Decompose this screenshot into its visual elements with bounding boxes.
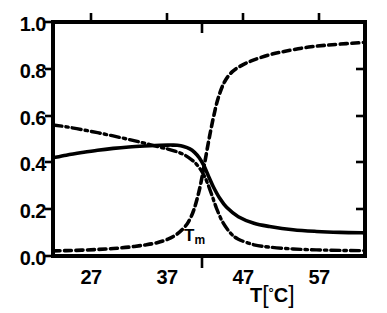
- xaxis-title-bracket-open: [: [262, 282, 268, 308]
- ytick-label-0p2: 0.2: [0, 201, 46, 221]
- xaxis-title-unit: C: [274, 284, 288, 306]
- tm-annotation: Tm: [184, 227, 205, 246]
- ytick-label-0p0: 0.0: [0, 248, 46, 268]
- xaxis-title: T[°C]: [250, 283, 295, 306]
- xtick-label-57: 57: [299, 267, 339, 287]
- ytick-label-0p4: 0.4: [0, 154, 46, 174]
- tm-annotation-symbol: T: [184, 226, 194, 245]
- xtick-label-37: 37: [147, 267, 187, 287]
- curve-dashed: [53, 42, 365, 250]
- xaxis-title-bracket-close: ]: [288, 282, 294, 308]
- xaxis-title-symbol: T: [250, 284, 262, 306]
- ytick-label-0p8: 0.8: [0, 61, 46, 81]
- xtick-label-27: 27: [71, 267, 111, 287]
- chart-figure: 1.0 0.8 0.6 0.4 0.2 0.0 27 37 47 57 Tm T…: [0, 0, 387, 313]
- data-curves: [53, 42, 365, 250]
- ytick-label-1p0: 1.0: [0, 14, 46, 34]
- ytick-label-0p6: 0.6: [0, 108, 46, 128]
- tm-annotation-subscript: m: [194, 233, 205, 247]
